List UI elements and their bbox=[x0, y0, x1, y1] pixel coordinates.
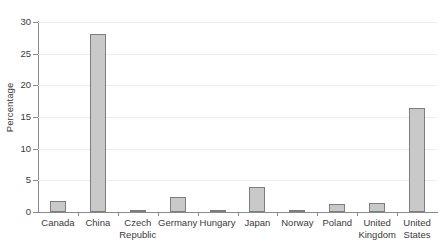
x-axis-tick-label-line: States bbox=[397, 229, 437, 241]
y-axis-tick-label: 30 bbox=[1, 17, 31, 27]
x-axis-tick bbox=[238, 212, 239, 216]
x-axis-tick-labels: CanadaChinaCzechRepublicGermanyHungaryJa… bbox=[38, 217, 437, 250]
x-axis-tick bbox=[118, 212, 119, 216]
x-axis-tick-label-line: United bbox=[357, 217, 397, 229]
y-axis-tick bbox=[33, 180, 38, 181]
x-axis-tick bbox=[357, 212, 358, 216]
x-axis-tick bbox=[158, 212, 159, 216]
x-axis-tick-label-line: Germany bbox=[158, 217, 198, 229]
x-axis-tick-label-line: Kingdom bbox=[357, 229, 397, 241]
x-axis-tick-label: UnitedStates bbox=[397, 217, 437, 241]
gridline bbox=[38, 22, 437, 23]
y-axis-tick bbox=[33, 149, 38, 150]
y-axis-tick bbox=[33, 117, 38, 118]
y-axis-tick-label: 20 bbox=[1, 81, 31, 91]
x-axis-tick-label: Canada bbox=[38, 217, 78, 229]
y-axis-tick bbox=[33, 212, 38, 213]
y-axis-title-text: Percentage bbox=[5, 82, 16, 132]
y-axis-tick-label: 5 bbox=[1, 176, 31, 186]
y-axis-tick-labels: 051015202530 bbox=[0, 0, 31, 250]
x-axis-tick-label: Norway bbox=[277, 217, 317, 229]
x-axis-tick-label: Poland bbox=[317, 217, 357, 229]
bar bbox=[369, 203, 385, 213]
x-axis-tick-label: Hungary bbox=[198, 217, 238, 229]
y-axis-tick bbox=[33, 54, 38, 55]
x-axis-tick bbox=[277, 212, 278, 216]
x-axis-tick-label: CzechRepublic bbox=[118, 217, 158, 241]
x-axis-tick-label-line: Poland bbox=[317, 217, 357, 229]
y-axis-tick bbox=[33, 22, 38, 23]
x-axis-tick-label: UnitedKingdom bbox=[357, 217, 397, 241]
bar bbox=[170, 197, 186, 212]
bar-chart-figure: Percentage 051015202530 CanadaChinaCzech… bbox=[0, 0, 445, 250]
bar bbox=[130, 210, 146, 212]
x-axis-tick-label-line: Canada bbox=[38, 217, 78, 229]
x-axis-tick bbox=[78, 212, 79, 216]
y-axis-title: Percentage bbox=[0, 0, 20, 214]
x-axis-tick-label: China bbox=[78, 217, 118, 229]
x-axis-tick-label-line: United bbox=[397, 217, 437, 229]
x-axis-tick-label-line: China bbox=[78, 217, 118, 229]
bar bbox=[329, 204, 345, 212]
x-axis-tick-label-line: Norway bbox=[277, 217, 317, 229]
y-axis-tick-label: 0 bbox=[1, 207, 31, 217]
x-axis-tick-label: Japan bbox=[238, 217, 278, 229]
x-axis-tick bbox=[198, 212, 199, 216]
y-axis-tick bbox=[33, 85, 38, 86]
bar bbox=[50, 201, 66, 212]
bar bbox=[90, 34, 106, 212]
x-axis-tick bbox=[397, 212, 398, 216]
bar bbox=[409, 108, 425, 212]
bar bbox=[249, 187, 265, 212]
x-axis-tick-label-line: Republic bbox=[118, 229, 158, 241]
x-axis-tick-label-line: Czech bbox=[118, 217, 158, 229]
x-axis-tick bbox=[317, 212, 318, 216]
plot-area bbox=[38, 22, 437, 212]
bar bbox=[289, 210, 305, 212]
x-axis-tick-label-line: Hungary bbox=[198, 217, 238, 229]
y-axis-tick-label: 15 bbox=[1, 112, 31, 122]
y-axis-tick-label: 10 bbox=[1, 144, 31, 154]
bar bbox=[210, 210, 226, 212]
x-axis-tick-label: Germany bbox=[158, 217, 198, 229]
y-axis-tick-label: 25 bbox=[1, 49, 31, 59]
x-axis-tick-label-line: Japan bbox=[238, 217, 278, 229]
